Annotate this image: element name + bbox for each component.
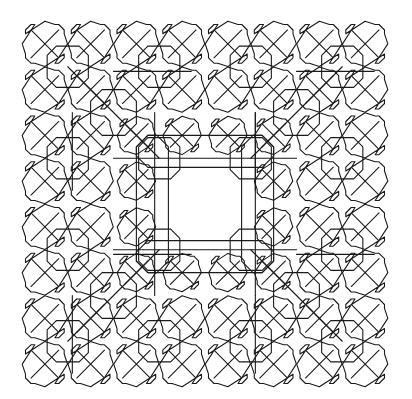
fractal-svg — [0, 0, 412, 399]
fractal-figure — [0, 0, 412, 399]
